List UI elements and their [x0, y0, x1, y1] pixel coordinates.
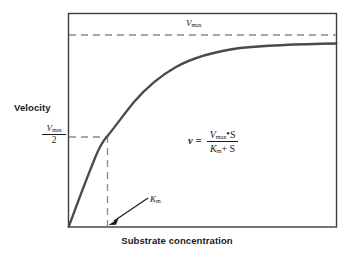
equation-denominator: Km+ S: [207, 142, 239, 154]
km-annotation-label: Km: [150, 195, 160, 204]
equation-equals-sign: =: [196, 135, 202, 146]
y-axis-title: Velocity: [14, 103, 51, 113]
km-callout-arrow: [109, 198, 149, 225]
michaelis-menten-equation: v = Vmax•S Km+ S: [188, 128, 238, 154]
equation-denominator-k: K: [210, 143, 217, 154]
equation-fraction: Vmax•S Km+ S: [207, 128, 239, 154]
vmax-annotation-label: Vmax: [186, 19, 201, 28]
vmax-subscript: max: [192, 22, 202, 28]
equation-numerator: Vmax•S: [207, 128, 239, 142]
half-vmax-numerator: Vmax: [42, 124, 66, 135]
michaelis-menten-figure: Velocity Vmax 2 Vmax Km v = Vmax•S Km+ S…: [0, 0, 354, 257]
half-vmax-tick-label: Vmax 2: [42, 124, 66, 146]
x-axis-title: Substrate concentration: [0, 236, 354, 246]
equation-numerator-v-subscript: max: [216, 133, 227, 140]
equation-numerator-s: S: [230, 129, 236, 140]
km-subscript: m: [156, 198, 160, 204]
equation-lhs: v: [188, 135, 193, 146]
half-vmax-denominator: 2: [42, 135, 66, 146]
half-vmax-subscript: max: [52, 127, 62, 133]
equation-denominator-plus-s: + S: [221, 143, 235, 154]
